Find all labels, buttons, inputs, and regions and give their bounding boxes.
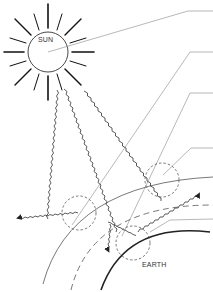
sun-label: SUN bbox=[38, 36, 53, 43]
leader-line-1 bbox=[48, 11, 213, 52]
leader-line-5 bbox=[150, 219, 213, 232]
leader-line-4 bbox=[163, 148, 213, 175]
radiation-rays bbox=[18, 89, 199, 251]
highlight-circles bbox=[62, 163, 179, 260]
dashed-layer-arc bbox=[71, 205, 213, 290]
leader-line-3 bbox=[122, 93, 213, 236]
solar-radiation-diagram bbox=[0, 0, 213, 292]
absorption-region-circle bbox=[145, 163, 179, 197]
earth-label: EARTH bbox=[142, 261, 167, 268]
